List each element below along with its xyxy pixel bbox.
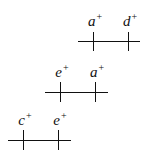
tick-mark [23,130,24,150]
tick-mark [95,82,96,102]
tick-mark [93,32,94,51]
horizontal-line [78,41,140,42]
tick-mark [128,32,129,51]
tick-mark [58,130,59,150]
tick-mark [60,82,61,102]
horizontal-line [8,140,71,141]
tick-label: e+ [53,111,66,128]
horizontal-line [45,92,108,93]
tick-label: c+ [18,111,31,128]
tick-label: d+ [123,12,137,29]
tick-label: a+ [88,12,102,29]
tick-label: e+ [55,63,68,80]
tick-label: a+ [90,63,104,80]
